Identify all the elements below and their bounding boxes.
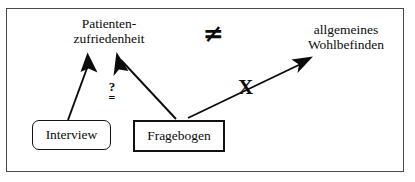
- node-wohlbefinden: allgemeines Wohlbefinden: [283, 22, 409, 52]
- node-wohlbefinden-line2: Wohlbefinden: [308, 37, 384, 52]
- diagram-canvas: Patienten- zufriedenheit allgemeines Woh…: [0, 0, 415, 182]
- node-patientenzufriedenheit: Patienten- zufriedenheit: [44, 16, 174, 46]
- node-box-fragebogen: Fragebogen: [133, 120, 225, 152]
- arrow-interview-to-patientenzufriedenheit: [68, 53, 98, 121]
- node-patientenzufriedenheit-line2: zufriedenheit: [73, 31, 144, 46]
- not-equal-symbol: ≠: [203, 21, 224, 46]
- node-box-interview: Interview: [32, 120, 111, 150]
- questioned-equal-symbol: ? =: [104, 80, 120, 103]
- arrow-fragebogen-to-patientenzufriedenheit: [114, 52, 177, 119]
- cross-out-symbol: X: [238, 77, 253, 98]
- node-patientenzufriedenheit-line1: Patienten-: [82, 16, 137, 31]
- equals-glyph: =: [104, 94, 120, 103]
- node-box-fragebogen-label: Fragebogen: [147, 128, 211, 144]
- node-box-interview-label: Interview: [46, 127, 98, 143]
- node-wohlbefinden-line1: allgemeines: [314, 22, 378, 37]
